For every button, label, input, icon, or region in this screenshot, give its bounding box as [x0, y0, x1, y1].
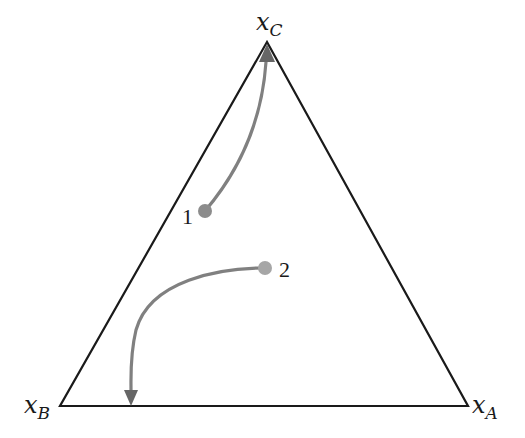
trajectory-2-curve — [131, 268, 265, 390]
vertex-label-xc: xC — [256, 8, 283, 40]
vertex-label-xa: xA — [472, 391, 498, 423]
trajectory-2-start-point — [258, 261, 272, 275]
ternary-diagram: 1 2 xC xB xA — [0, 0, 525, 438]
vertex-label-xb: xB — [24, 391, 50, 423]
trajectory-1-label: 1 — [182, 204, 193, 229]
trajectory-2-label: 2 — [279, 257, 290, 282]
ternary-triangle — [60, 42, 468, 406]
trajectory-2-arrowhead-icon — [124, 390, 138, 406]
trajectory-1-start-point — [198, 204, 212, 218]
